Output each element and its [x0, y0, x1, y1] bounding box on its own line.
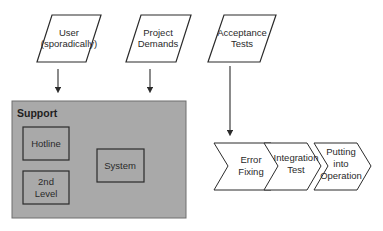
support-title: Support — [17, 107, 58, 119]
chevron-integration-test-line-2: Test — [287, 164, 305, 175]
input-project-demands-line-2: Demands — [138, 38, 179, 49]
box-second-level-line-1: 2nd — [38, 176, 54, 187]
chevron-putting-line-2: into — [333, 158, 348, 169]
input-acceptance-tests-line-2: Tests — [231, 38, 253, 49]
input-acceptance-tests-line-1: Acceptance — [217, 27, 267, 38]
box-second-level[interactable]: 2nd Level — [23, 171, 69, 204]
chevron-putting-into-operation[interactable]: Putting into Operation — [314, 143, 371, 190]
chevron-integration-test-line-1: Integration — [274, 152, 319, 163]
input-user[interactable]: User (sporadically) — [37, 15, 101, 62]
box-system[interactable]: System — [97, 149, 144, 182]
box-hotline-label: Hotline — [31, 138, 61, 149]
box-hotline[interactable]: Hotline — [23, 127, 69, 160]
support-container: Support Hotline 2nd Level System — [12, 101, 186, 218]
chevron-putting-line-3: Operation — [320, 170, 362, 181]
chevron-error-fixing-line-2: Fixing — [238, 166, 263, 177]
chevron-putting-line-1: Putting — [326, 146, 356, 157]
input-acceptance-tests[interactable]: Acceptance Tests — [208, 15, 276, 62]
input-project-demands-line-1: Project — [143, 27, 173, 38]
box-system-label: System — [104, 160, 136, 171]
input-user-line-1: User — [59, 27, 79, 38]
chevron-error-fixing-line-1: Error — [240, 154, 261, 165]
input-user-line-2: (sporadically) — [41, 38, 98, 49]
input-project-demands[interactable]: Project Demands — [126, 15, 191, 62]
diagram-canvas: User (sporadically) Project Demands Acce… — [0, 0, 383, 231]
box-second-level-line-2: Level — [35, 188, 58, 199]
